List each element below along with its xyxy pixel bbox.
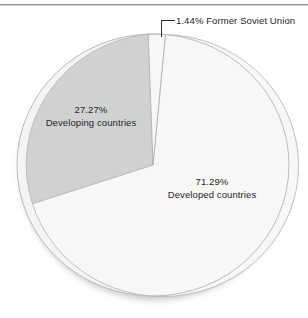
pie-graphic (16, 33, 290, 297)
page-top-rule-shadow (0, 5, 308, 6)
slice-name-developed: Developed countries (142, 189, 282, 202)
slice-label-developed-countries: 71.29% Developed countries (142, 176, 282, 201)
pie-svg (16, 33, 290, 297)
leader-line-vertical (161, 20, 162, 37)
slice-percent-developing: 27.27% (30, 104, 152, 117)
slice-name-developing: Developing countries (30, 117, 152, 130)
pie-chart-figure: 1.44% Former Soviet Union 27.27% Develop… (0, 0, 308, 318)
slice-label-former-soviet-union: 1.44% Former Soviet Union (176, 15, 295, 27)
leader-line-horizontal (161, 20, 175, 21)
slice-percent-developed: 71.29% (142, 176, 282, 189)
slice-label-developing-countries: 27.27% Developing countries (30, 104, 152, 129)
